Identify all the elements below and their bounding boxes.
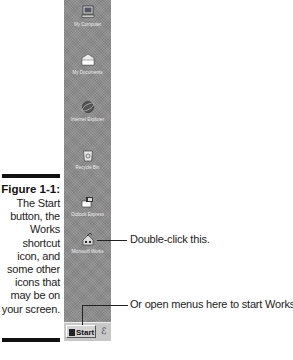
caption-line: Works bbox=[0, 223, 60, 236]
caption-line: icon, and bbox=[0, 250, 60, 263]
desktop-icon-my-documents[interactable]: My Documents bbox=[64, 53, 111, 75]
caption-line: button, the bbox=[0, 210, 60, 223]
start-button[interactable]: Start bbox=[66, 325, 96, 338]
works-callout: Double-click this. bbox=[130, 233, 210, 245]
windows-logo-icon bbox=[69, 329, 75, 336]
folder-icon bbox=[81, 53, 95, 67]
desktop-icon-label: Internet Explorer bbox=[64, 117, 111, 122]
mail-icon bbox=[81, 195, 95, 209]
desktop-icon-microsoft-works[interactable]: Microsoft Works bbox=[64, 232, 111, 254]
caption-top-rule bbox=[2, 174, 60, 178]
start-label: Start bbox=[76, 328, 94, 337]
desktop-icon-my-computer[interactable]: My Computer bbox=[64, 5, 111, 27]
taskbar: Start ℰ bbox=[64, 322, 111, 341]
desktop-icon-outlook-express[interactable]: Outlook Express bbox=[64, 195, 111, 217]
globe-icon bbox=[81, 100, 95, 114]
recycle-bin-icon bbox=[81, 148, 95, 162]
caption-line: icons that bbox=[0, 276, 60, 289]
ie-quicklaunch-icon[interactable]: ℰ bbox=[101, 326, 109, 337]
caption-line: The Start bbox=[0, 197, 60, 210]
desktop-icon-label: Recycle Bin bbox=[64, 165, 111, 170]
desktop-icon-label: My Computer bbox=[64, 22, 111, 27]
start-callout: Or open menus here to start Works. bbox=[130, 298, 293, 310]
caption-line: may be on bbox=[0, 289, 60, 302]
caption-line: some other bbox=[0, 263, 60, 276]
works-icon bbox=[81, 232, 95, 246]
desktop-icon-label: My Documents bbox=[64, 70, 111, 75]
figure-caption: The Start button, the Works shortcut ico… bbox=[0, 197, 60, 316]
desktop-icon-internet-explorer[interactable]: Internet Explorer bbox=[64, 100, 111, 122]
start-callout-leader-vertical bbox=[82, 305, 83, 325]
caption-line: shortcut bbox=[0, 237, 60, 250]
figure-number: Figure 1-1: bbox=[0, 183, 60, 195]
desktop-icon-label: Outlook Express bbox=[64, 212, 111, 217]
desktop-icon-recycle-bin[interactable]: Recycle Bin bbox=[64, 148, 111, 170]
desktop-area: My Computer My Documents Internet Explor… bbox=[64, 0, 111, 340]
caption-line: your screen. bbox=[0, 303, 60, 316]
start-callout-leader bbox=[82, 305, 128, 306]
caption-bottom-rule bbox=[2, 338, 60, 342]
desktop-icon-label: Microsoft Works bbox=[64, 249, 111, 254]
works-callout-leader bbox=[97, 240, 127, 241]
monitor-icon bbox=[81, 5, 95, 19]
